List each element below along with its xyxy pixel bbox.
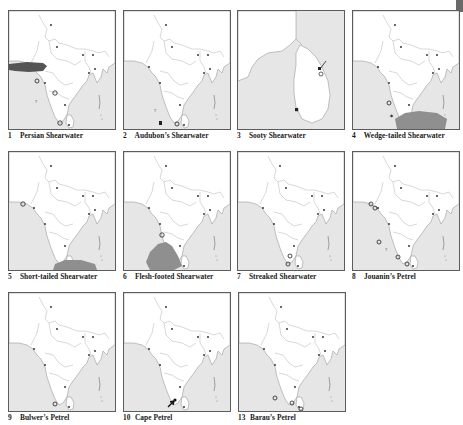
sri-lanka-outline-map xyxy=(238,11,344,129)
species-name: Jouanin’s Petrel xyxy=(364,272,416,281)
species-name: Persian Shearwater xyxy=(20,131,83,140)
map-caption: 8 Jouanin’s Petrel xyxy=(352,272,416,281)
india-outline-map xyxy=(124,293,230,411)
species-name: Bulwer’s Petrel xyxy=(20,413,70,422)
record-marker-icon xyxy=(295,108,298,111)
india-outline-map: ✶ xyxy=(353,11,459,129)
india-outline-map xyxy=(9,152,115,270)
map-number: 4 xyxy=(352,131,362,140)
map-caption: 13 Barau’s Petrel xyxy=(238,413,296,422)
map-caption: 4 Wedge-tailed Shearwater xyxy=(352,131,445,140)
map-india xyxy=(123,292,231,412)
map-caption: 10 Cape Petrel xyxy=(123,413,172,422)
map-caption: 5 Short-tailed Shearwater xyxy=(8,272,97,281)
map-number: 6 xyxy=(123,272,133,281)
map-number: 13 xyxy=(238,413,248,422)
species-name: Barau’s Petrel xyxy=(250,413,296,422)
species-name: Streaked Shearwater xyxy=(249,272,317,281)
record-marker-icon xyxy=(318,67,321,70)
map-india: ? xyxy=(352,151,460,271)
map-india xyxy=(237,151,345,271)
map-caption: 3 Sooty Shearwater xyxy=(237,131,306,140)
map-number: 5 xyxy=(8,272,18,281)
map-sri-lanka xyxy=(237,10,345,130)
map-number: 1 xyxy=(8,131,18,140)
map-caption: 6 Flesh-footed Shearwater xyxy=(123,272,213,281)
india-outline-map xyxy=(238,152,344,270)
map-india xyxy=(238,292,346,412)
india-outline-map xyxy=(9,293,115,411)
record-marker-icon xyxy=(159,121,162,125)
range-patch xyxy=(9,62,47,72)
india-outline-map xyxy=(239,293,345,411)
india-outline-map: ? xyxy=(9,11,115,129)
map-india xyxy=(123,151,231,271)
map-india: ? xyxy=(8,10,116,130)
map-caption: 7 Streaked Shearwater xyxy=(237,272,316,281)
map-india xyxy=(8,292,116,412)
map-caption: 1 Persian Shearwater xyxy=(8,131,83,140)
india-outline-map: ? xyxy=(353,152,459,270)
map-number: 3 xyxy=(237,131,247,140)
map-caption: 2 Audubon’s Shearwater xyxy=(123,131,209,140)
species-name: Flesh-footed Shearwater xyxy=(135,272,214,281)
map-india: ✶ xyxy=(352,10,460,130)
map-india xyxy=(8,151,116,271)
map-number: 9 xyxy=(8,413,18,422)
map-number: 10 xyxy=(123,413,133,422)
map-india: ? xyxy=(123,10,231,130)
species-name: Audubon’s Shearwater xyxy=(135,131,209,140)
species-name: Short-tailed Shearwater xyxy=(20,272,97,281)
species-name: Wedge-tailed Shearwater xyxy=(364,131,445,140)
india-outline-map xyxy=(124,152,230,270)
map-number: 7 xyxy=(237,272,247,281)
india-outline-map: ? xyxy=(124,11,230,129)
star-icon: ✶ xyxy=(389,113,394,119)
map-number: 2 xyxy=(123,131,133,140)
map-caption: 9 Bulwer’s Petrel xyxy=(8,413,69,422)
species-name: Sooty Shearwater xyxy=(249,131,306,140)
species-name: Cape Petrel xyxy=(135,413,173,422)
map-number: 8 xyxy=(352,272,362,281)
